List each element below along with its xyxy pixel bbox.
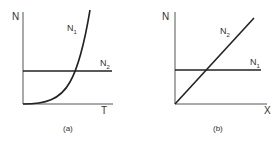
- line-label: N1: [250, 57, 261, 69]
- diagram-canvas: N T N1 N2 (a) N X N2 N1 (b): [0, 0, 278, 142]
- panel-caption: (b): [213, 124, 223, 133]
- curve-label: N2: [220, 26, 231, 38]
- line-label: N2: [100, 58, 111, 70]
- panel-caption: (a): [63, 124, 73, 133]
- y-axis-label: N: [162, 11, 169, 22]
- exponential-curve-n1: [23, 10, 90, 104]
- panel-b: N X N2 N1 (b): [162, 11, 271, 133]
- panel-a: N T N1 N2 (a): [12, 10, 113, 133]
- x-axis-label: T: [101, 105, 107, 116]
- x-axis-label: X: [264, 105, 271, 116]
- curve-label: N1: [67, 23, 78, 35]
- linear-line-n2: [175, 18, 254, 104]
- y-axis-label: N: [12, 11, 19, 22]
